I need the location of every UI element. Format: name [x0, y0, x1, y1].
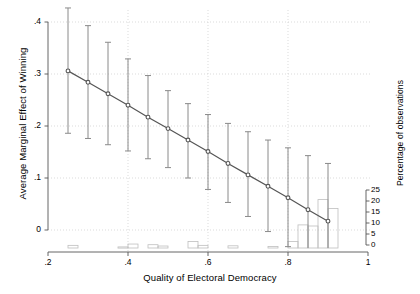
y-tick-label: 0: [19, 224, 41, 234]
y-tick-label: .2: [19, 120, 41, 130]
right-y-tick-label: 10: [371, 218, 380, 227]
histogram-bar: [128, 244, 138, 248]
data-point-marker: [286, 196, 290, 200]
histogram-bar: [148, 245, 158, 248]
chart-figure: Average Marginal Effect of Winning Perce…: [0, 0, 420, 294]
x-tick-label: .4: [113, 257, 143, 267]
data-point-marker: [246, 173, 250, 177]
x-tick-label: 1: [353, 257, 383, 267]
data-point-marker: [166, 127, 170, 131]
histogram-bar: [68, 245, 78, 248]
histogram-bar: [188, 241, 198, 248]
plot-area: [0, 0, 420, 294]
data-point-marker: [66, 69, 70, 73]
right-y-tick-label: 5: [371, 229, 375, 238]
histogram-bar: [118, 247, 128, 248]
data-point-marker: [126, 103, 130, 107]
data-point-marker: [186, 138, 190, 142]
right-y-tick-label: 20: [371, 196, 380, 205]
histogram-bar: [158, 246, 168, 248]
right-y-tick-label: 25: [371, 185, 380, 194]
data-point-marker: [326, 219, 330, 223]
x-tick-label: .6: [193, 257, 223, 267]
histogram-bar: [328, 208, 338, 248]
histogram-bar: [228, 246, 238, 248]
right-y-tick-label: 0: [371, 240, 375, 249]
data-point-marker: [226, 162, 230, 166]
histogram-bar: [298, 225, 308, 248]
x-tick-label: .8: [273, 257, 303, 267]
x-tick-label: .2: [33, 257, 63, 267]
data-point-marker: [306, 208, 310, 212]
histogram-bar: [198, 245, 208, 248]
histogram-bar: [318, 200, 328, 248]
y-tick-label: .4: [19, 16, 41, 26]
y-tick-label: .1: [19, 172, 41, 182]
histogram-bar: [268, 246, 278, 248]
data-point-marker: [86, 80, 90, 84]
data-point-marker: [266, 184, 270, 188]
histogram-bar: [308, 226, 318, 248]
data-point-marker: [106, 92, 110, 96]
y-tick-label: .3: [19, 68, 41, 78]
data-point-marker: [146, 115, 150, 119]
right-y-tick-label: 15: [371, 207, 380, 216]
data-point-marker: [206, 150, 210, 154]
